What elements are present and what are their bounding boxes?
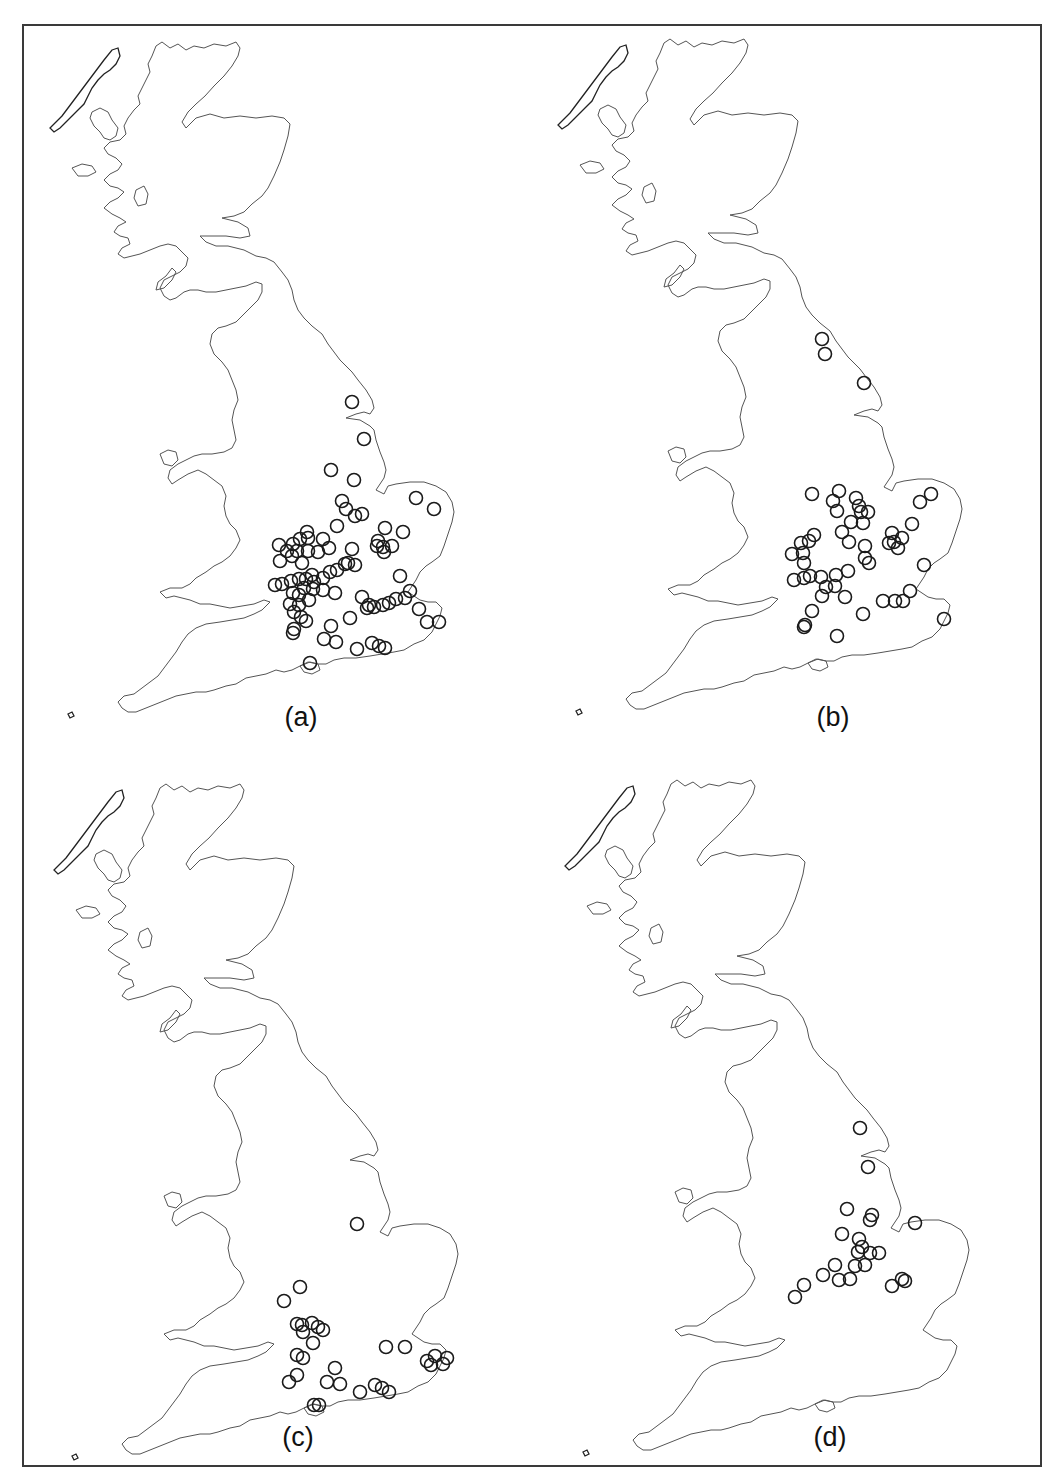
site-marker <box>344 612 357 625</box>
site-marker <box>278 1295 291 1308</box>
site-marker <box>841 1203 854 1216</box>
site-marker <box>850 492 863 505</box>
site-marker <box>857 608 870 621</box>
site-marker <box>354 1386 367 1399</box>
site-marker <box>303 594 316 607</box>
site-marker <box>925 488 938 501</box>
site-marker <box>410 492 423 505</box>
site-marker <box>397 526 410 539</box>
site-marker <box>842 565 855 578</box>
site-marker <box>858 377 871 390</box>
site-marker <box>323 542 336 555</box>
maps-canvas <box>0 0 1056 1484</box>
site-marker <box>346 543 359 556</box>
panel-label-b: (b) <box>817 704 850 731</box>
site-marker <box>379 522 392 535</box>
panel-a-map <box>50 42 454 718</box>
site-marker <box>329 587 342 600</box>
site-marker <box>330 636 343 649</box>
site-marker <box>334 1378 347 1391</box>
site-marker <box>317 584 330 597</box>
site-marker <box>817 1269 830 1282</box>
site-marker <box>806 488 819 501</box>
site-marker <box>897 595 910 608</box>
panel-b-map <box>558 39 962 715</box>
site-marker <box>325 464 338 477</box>
site-marker <box>854 1122 867 1135</box>
site-marker <box>274 555 287 568</box>
site-marker <box>380 1341 393 1354</box>
site-marker <box>906 518 919 531</box>
site-marker <box>862 1161 875 1174</box>
site-marker <box>833 485 846 498</box>
dots-a <box>269 396 446 670</box>
site-marker <box>829 1259 842 1272</box>
panel-label-a: (a) <box>285 704 318 731</box>
site-marker <box>798 1279 811 1292</box>
site-marker <box>346 396 359 409</box>
site-marker <box>918 559 931 572</box>
site-marker <box>307 1337 320 1350</box>
site-marker <box>413 603 426 616</box>
site-marker <box>283 1376 296 1389</box>
coastline-d <box>565 780 969 1456</box>
site-marker <box>291 1369 304 1382</box>
site-marker <box>853 1233 866 1246</box>
site-marker <box>864 1214 877 1227</box>
site-marker <box>798 557 811 570</box>
site-marker <box>285 575 298 588</box>
site-marker <box>358 433 371 446</box>
site-marker <box>421 616 434 629</box>
site-marker <box>914 496 927 509</box>
site-marker <box>294 1281 307 1294</box>
site-marker <box>351 1218 364 1231</box>
panel-label-d: (d) <box>814 1424 847 1451</box>
site-marker <box>428 503 441 516</box>
site-marker <box>831 630 844 643</box>
site-marker <box>909 1217 922 1230</box>
site-marker <box>329 1362 342 1375</box>
site-marker <box>873 1247 886 1260</box>
site-marker <box>317 533 330 546</box>
coastline-c <box>54 784 458 1460</box>
site-marker <box>819 348 832 361</box>
site-marker <box>843 536 856 549</box>
panel-d-map <box>565 780 969 1456</box>
coastline-a <box>50 42 454 718</box>
site-marker <box>296 557 309 570</box>
site-marker <box>877 595 890 608</box>
site-marker <box>325 620 338 633</box>
site-marker <box>394 570 407 583</box>
site-marker <box>336 495 349 508</box>
site-marker <box>348 474 361 487</box>
site-marker <box>318 633 331 646</box>
site-marker <box>806 605 819 618</box>
site-marker <box>321 1376 334 1389</box>
dots-d <box>789 1122 922 1304</box>
panel-label-c: (c) <box>282 1424 313 1451</box>
site-marker <box>839 591 852 604</box>
site-marker <box>399 1341 412 1354</box>
site-marker <box>836 1228 849 1241</box>
site-marker <box>789 1291 802 1304</box>
site-marker <box>331 520 344 533</box>
site-marker <box>351 643 364 656</box>
figure: (a) (b) (c) (d) <box>0 0 1056 1484</box>
site-marker <box>340 503 353 516</box>
site-marker <box>849 1260 862 1273</box>
site-marker <box>938 613 951 626</box>
panel-c-map <box>54 784 458 1460</box>
site-marker <box>816 333 829 346</box>
site-marker <box>859 540 872 553</box>
coastline-b <box>558 39 962 715</box>
